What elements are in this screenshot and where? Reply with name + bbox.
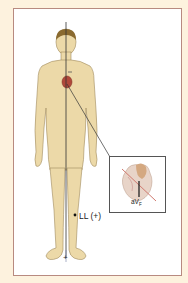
positive-pole-label: + [63, 253, 68, 262]
ll-electrode-dot [74, 214, 77, 217]
avf-label: aVF [131, 198, 142, 207]
ll-electrode-label: LL (+) [79, 211, 101, 221]
body-illustration [0, 0, 188, 283]
figure-page: aVF LL (+) + [0, 0, 188, 283]
heart-icon [62, 76, 72, 88]
